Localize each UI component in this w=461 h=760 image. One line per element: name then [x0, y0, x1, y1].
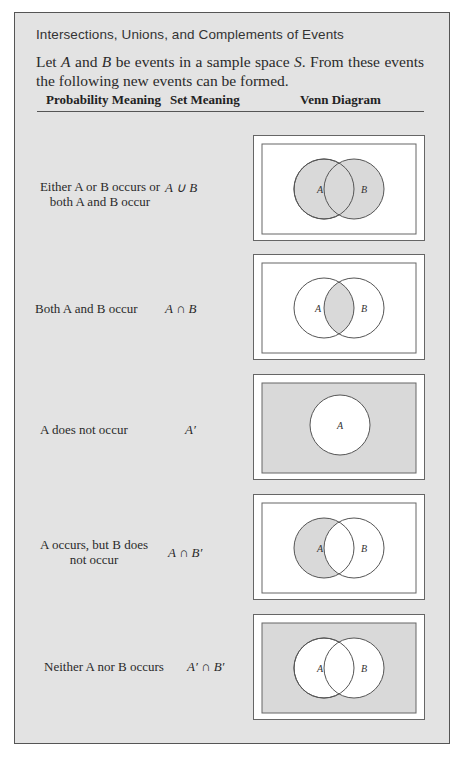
venn-diagram-complement: A [254, 375, 426, 481]
venn-diagram-intersection: A B [254, 255, 426, 361]
venn-diagram-union: A B [254, 136, 426, 242]
row-4-set-meaning: A ∩ B′ [168, 545, 202, 561]
venn-card-union: A B [253, 135, 425, 241]
intro-text: Let [36, 53, 61, 70]
row-2-probability-meaning: Both A and B occur [35, 301, 145, 316]
venn-card-complement: A [253, 374, 425, 480]
venn-label-a: A [316, 184, 324, 195]
column-header-probability: Probability Meaning [46, 92, 161, 108]
row-3-set-meaning: A′ [185, 422, 196, 438]
venn-diagram-a-not-b: A B [254, 495, 426, 601]
venn-diagram-neither: A B [254, 615, 426, 721]
row-1-set-meaning: A ∪ B [165, 180, 197, 196]
venn-label-b: B [361, 303, 367, 314]
intro-paragraph: Let A and B be events in a sample space … [36, 52, 424, 90]
venn-label-b: B [361, 184, 367, 195]
row-3-probability-meaning: A does not occur [40, 422, 160, 437]
header-divider [37, 111, 424, 112]
row-4-probability-meaning: A occurs, but B does not occur [38, 537, 150, 567]
intro-text: and [71, 53, 102, 70]
column-header-set: Set Meaning [170, 92, 240, 108]
row-5-probability-meaning: Neither A nor B occurs [44, 659, 184, 674]
row-1-probability-meaning: Either A or B occurs or both A and B occ… [35, 179, 165, 209]
venn-label-a: A [314, 303, 322, 314]
venn-label-b: B [361, 543, 367, 554]
intro-text: be events in a sample space [111, 53, 294, 70]
venn-card-neither: A B [253, 614, 425, 720]
row-2-set-meaning: A ∩ B [165, 301, 197, 317]
venn-card-intersection: A B [253, 254, 425, 360]
row-5-set-meaning: A′ ∩ B′ [187, 659, 224, 675]
venn-label-a: A [336, 420, 344, 431]
venn-label-a: A [316, 663, 324, 674]
column-header-venn: Venn Diagram [300, 92, 381, 108]
intro-var-b: B [102, 53, 111, 70]
venn-label-a: A [316, 543, 324, 554]
box-title: Intersections, Unions, and Complements o… [36, 27, 344, 42]
venn-label-b: B [361, 663, 367, 674]
venn-card-a-not-b: A B [253, 494, 425, 600]
intro-var-s: S [294, 53, 302, 70]
intro-var-a: A [61, 53, 70, 70]
